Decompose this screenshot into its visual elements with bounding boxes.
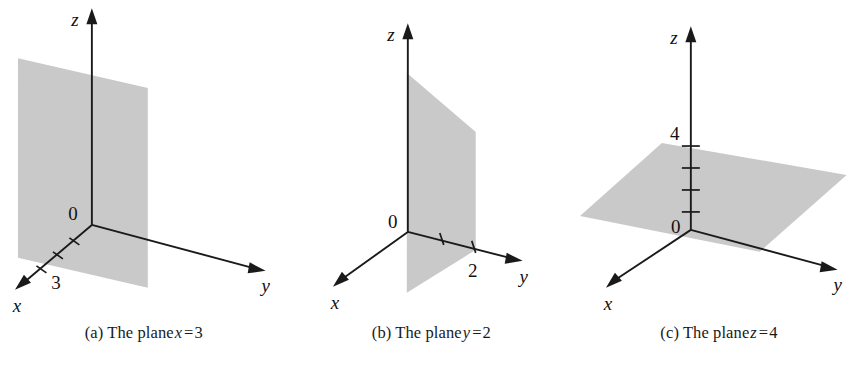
x-axis-arrowhead (606, 273, 622, 288)
shaded-plane-region (406, 73, 475, 293)
panel-c-caption-variable: z (749, 323, 758, 342)
origin-label: 0 (671, 216, 680, 237)
z-axis-label: z (386, 24, 395, 45)
x-axis-line (344, 232, 408, 278)
panel-a-diagram: 0 3 z y x (0, 0, 288, 318)
y-axis-arrowhead (504, 253, 522, 264)
origin-label: 0 (68, 203, 77, 224)
panel-a-caption-value: 3 (195, 323, 203, 342)
shaded-plane-region (18, 58, 148, 288)
x-axis-label: x (603, 293, 613, 314)
x-axis-arrowhead (15, 275, 31, 290)
panel-b-caption-value: 2 (483, 323, 491, 342)
panel-a-caption: (a) The planex=3 (0, 322, 288, 344)
y-axis-tick-value-label: 2 (468, 260, 477, 281)
z-axis-arrowhead (402, 23, 413, 39)
panel-c-caption-equals: = (758, 323, 769, 342)
panel-a-caption-equals: = (183, 323, 194, 342)
panel-a-caption-prefix: (a) The plane (85, 323, 174, 342)
panel-b-caption-equals: = (471, 323, 482, 342)
x-axis-line (617, 230, 691, 279)
panel-c-caption-prefix: (c) The plane (660, 323, 749, 342)
x-axis-label: x (329, 292, 339, 313)
z-axis-label: z (669, 27, 678, 48)
y-axis-label: y (517, 266, 528, 287)
y-axis-label: y (832, 274, 843, 295)
panel-a-caption-variable: x (174, 323, 183, 342)
panel-b-diagram: 0 2 z y x (288, 0, 576, 318)
panel-b-caption-prefix: (b) The plane (372, 323, 462, 342)
z-axis-arrowhead (86, 8, 97, 24)
z-axis-label: z (70, 9, 79, 30)
panel-b-caption: (b) The planey=2 (288, 322, 576, 344)
x-axis-tick-value-label: 3 (51, 272, 60, 293)
origin-label: 0 (388, 211, 397, 232)
coordinate-planes-figure: 0 3 z y x (a) The planex=3 (0, 0, 863, 376)
z-axis-tick-value-label: 4 (670, 123, 680, 144)
panel-b-caption-variable: y (462, 323, 471, 342)
panel-c-caption: (c) The planez=4 (575, 322, 863, 344)
panel-plane-z: 0 4 z y x (c) The planez=4 (575, 0, 863, 376)
panel-c-caption-value: 4 (769, 323, 777, 342)
y-axis-label: y (259, 275, 270, 296)
z-axis-arrowhead (686, 26, 697, 42)
x-axis-arrowhead (333, 272, 349, 287)
panel-c-diagram: 0 4 z y x (575, 0, 863, 318)
y-axis-arrowhead (248, 262, 266, 273)
panel-plane-y: 0 2 z y x (b) The planey=2 (288, 0, 576, 376)
x-axis-label: x (12, 295, 22, 316)
y-axis-arrowhead (820, 261, 838, 272)
panel-plane-x: 0 3 z y x (a) The planex=3 (0, 0, 288, 376)
